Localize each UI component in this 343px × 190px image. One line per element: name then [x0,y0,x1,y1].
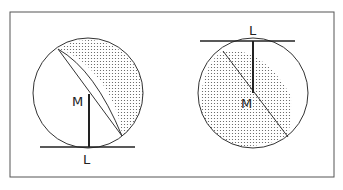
label-l: L [249,23,257,38]
label-m: M [72,94,83,109]
label-l: L [83,152,91,167]
shaded-crescent [58,40,143,136]
figure: M L L M [0,0,343,190]
right-diagram: L M [198,23,308,148]
label-m: M [241,96,252,111]
left-diagram: M L [33,38,143,167]
